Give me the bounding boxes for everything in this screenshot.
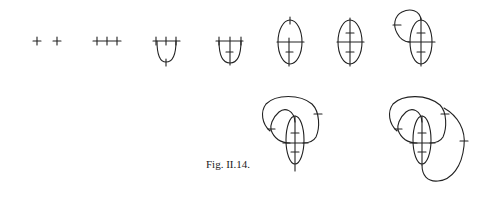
panel-6 [337,18,364,66]
panel-9 [390,97,468,181]
panel-4 [216,37,243,65]
panel-2 [93,37,121,45]
figure-canvas [0,0,490,201]
panel-7 [393,10,435,66]
panel-5 [277,17,304,66]
panel-8 [263,97,322,172]
figure-caption: Fig. II.14. [206,158,250,170]
panel-1 [33,37,61,45]
panel-3 [153,37,180,66]
